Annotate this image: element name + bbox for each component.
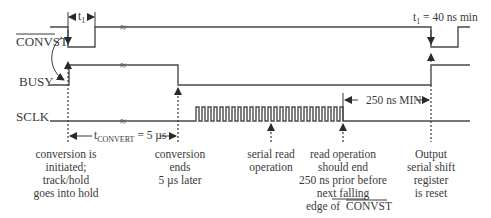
svg-text:is reset: is reset [415, 187, 448, 199]
svg-text:Output: Output [415, 148, 448, 161]
svg-text:conversion is: conversion is [35, 148, 97, 160]
svg-text:operation: operation [249, 161, 293, 174]
busy-label: BUSY [19, 74, 54, 89]
t1-spec: t1 = 40 ns min [413, 11, 478, 26]
svg-text:track/hold: track/hold [43, 174, 90, 186]
tconvert-label: tCONVERT = 5 µs [94, 129, 167, 144]
svg-text:should end: should end [318, 161, 368, 173]
convst-waveform [50, 27, 470, 47]
svg-text:ends: ends [169, 161, 191, 173]
svg-text:edge of: edge of [306, 200, 340, 213]
sclk-label: SCLK [16, 109, 50, 124]
svg-text:serial read: serial read [247, 148, 295, 160]
break-symbol-sclk: ≈ [120, 115, 126, 127]
t1-label: t1 [78, 10, 85, 25]
note-output-reset: Output serial shift register is reset [407, 148, 456, 199]
svg-text:register: register [414, 174, 449, 187]
note-serial-read: serial read operation [247, 148, 295, 174]
note-conversion-ends: conversion ends 5 µs later [155, 148, 206, 187]
svg-text:goes into hold: goes into hold [33, 187, 98, 200]
min250-label: 250 ns MIN [366, 94, 422, 106]
svg-text:5 µs later: 5 µs later [158, 174, 201, 187]
busy-waveform [50, 65, 470, 85]
svg-text:CONVST: CONVST [346, 200, 392, 212]
svg-text:next falling: next falling [317, 187, 370, 200]
break-symbol-convst: ≈ [120, 21, 126, 33]
sclk-waveform [50, 107, 470, 121]
note-conversion-initiated: conversion is initiated; track/hold goes… [33, 148, 98, 200]
note-read-should-end: read operation should end 250 ns prior b… [299, 148, 392, 213]
svg-text:250 ns prior before: 250 ns prior before [299, 174, 387, 187]
convst-label: CONVST [16, 34, 68, 49]
svg-text:read operation: read operation [310, 148, 376, 161]
timing-diagram: CONVST BUSY SCLK ≈ ≈ ≈ t1 tCONVERT = 5 µ… [0, 0, 491, 218]
svg-text:conversion: conversion [155, 148, 206, 160]
svg-text:initiated;: initiated; [46, 161, 87, 173]
break-symbol-busy: ≈ [120, 59, 126, 71]
svg-text:serial shift: serial shift [407, 161, 456, 173]
